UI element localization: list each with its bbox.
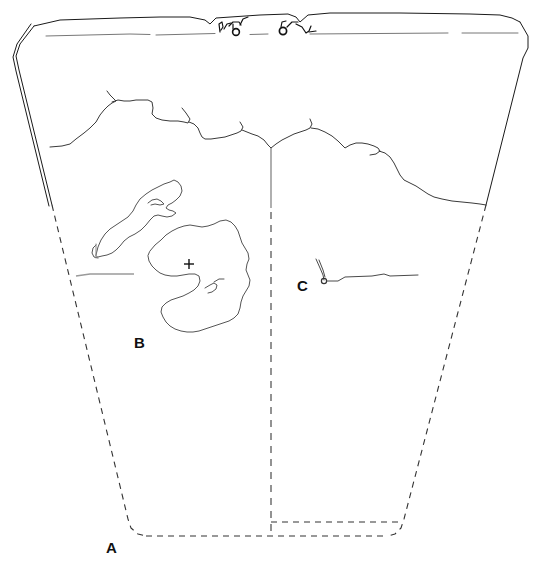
feature-b-inner-line-1: [205, 283, 217, 293]
topsoil-line-2: [156, 34, 215, 36]
label-c: C: [297, 277, 308, 294]
topsoil-line-3: [250, 34, 268, 35]
stratum-boundary-left: [50, 91, 486, 205]
feature-b-upper-lobe: [96, 180, 182, 257]
sketch-mark-right: [279, 21, 316, 35]
trench-left-wall: [16, 26, 52, 205]
feature-b-inner-mark: [148, 199, 164, 205]
label-a: A: [106, 539, 117, 556]
trench-right-wall: [486, 22, 528, 205]
trench-left-wall-dashed: [52, 205, 146, 536]
stratum-boundary: [50, 91, 486, 205]
feature-b-main-lobe: [148, 220, 250, 332]
topsoil-line-1: [46, 34, 150, 36]
trench-top-edge: [34, 13, 520, 26]
trench-left-wall-inner: [13, 24, 49, 206]
feature-b-inner-line-2: [214, 279, 224, 282]
label-b: B: [134, 334, 145, 351]
scale-rule-left: [76, 274, 134, 276]
feature-c-horizontal: [327, 274, 418, 281]
trench-right-wall-dashed: [388, 205, 486, 536]
center-cross: [184, 259, 194, 269]
feature-b-outline: [92, 180, 250, 332]
section-drawing: A B C: [0, 0, 536, 566]
trench-projected-outline: [52, 205, 486, 536]
sketch-mark-left: [219, 17, 248, 35]
figure-canvas: A B C A B C +: [0, 0, 536, 566]
topsoil-line-4: [310, 33, 448, 34]
feature-c-line: [316, 259, 418, 284]
